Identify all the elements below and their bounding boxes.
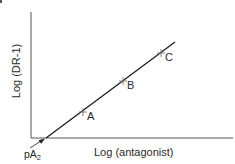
schild-plot: A B C pA2 Log (antagonist) Log (DR-1) xyxy=(0,0,235,164)
point-label-c: C xyxy=(165,51,173,63)
x-axis-label: Log (antagonist) xyxy=(94,146,174,158)
pa2-label-subscript: 2 xyxy=(37,153,41,162)
pa2-label-main: pA xyxy=(24,148,37,160)
regression-line xyxy=(46,42,175,138)
point-label-b: B xyxy=(127,79,134,91)
corner-mark xyxy=(0,0,2,3)
data-point-a xyxy=(79,108,87,116)
point-label-a: A xyxy=(87,110,95,122)
pa2-label: pA2 xyxy=(24,148,41,162)
y-axis-label: Log (DR-1) xyxy=(10,44,22,98)
pa2-arrow-head-icon xyxy=(39,139,46,144)
pa2-arrow-shaft xyxy=(30,141,41,148)
